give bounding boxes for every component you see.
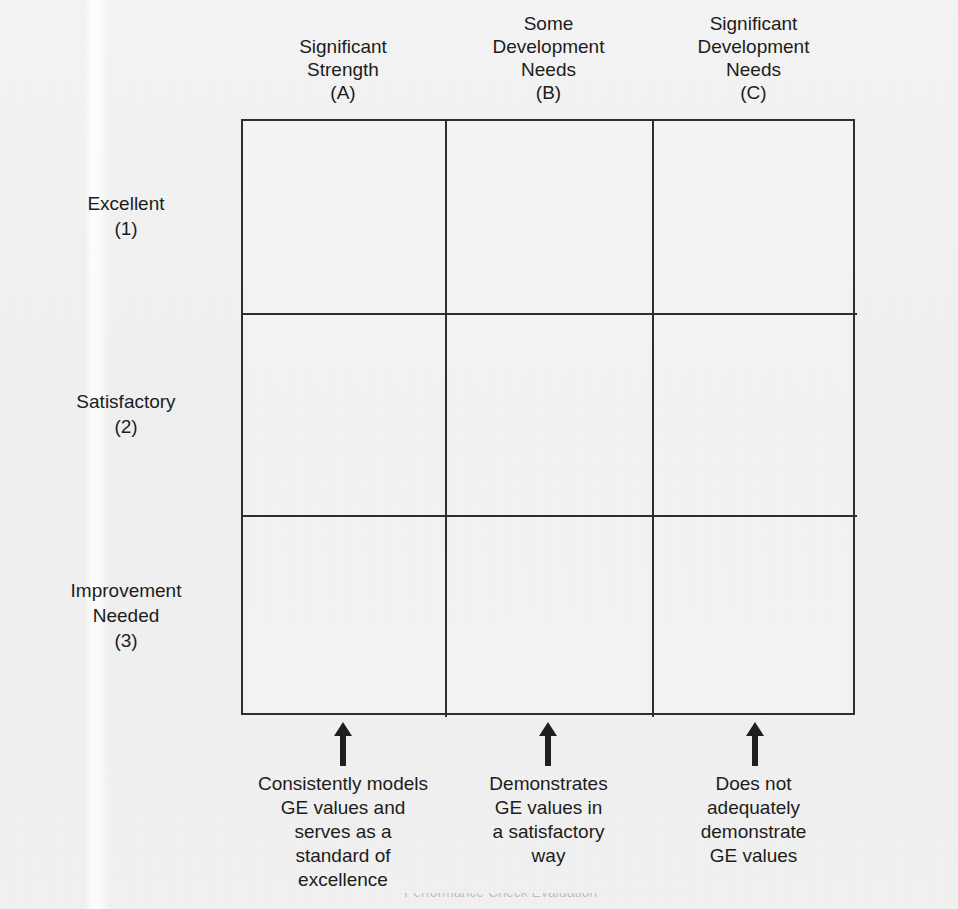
column-caption-b: Demonstrates GE values in a satisfactory…: [445, 772, 652, 868]
matrix-cell-1a[interactable]: [243, 121, 447, 315]
performance-matrix-grid: [241, 119, 855, 715]
row-label-excellent: Excellent (1): [20, 119, 232, 313]
arrow-up-icon-column-a: [331, 722, 355, 766]
arrow-up-icon-column-b: [536, 722, 560, 766]
arrow-shaft: [340, 732, 346, 766]
arrow-shaft: [752, 732, 758, 766]
matrix-cell-1c[interactable]: [654, 121, 857, 315]
matrix-cell-3b[interactable]: [447, 517, 654, 717]
scanned-page: Significant Strength (A) Some Developmen…: [0, 0, 958, 909]
arrow-shaft: [545, 732, 551, 766]
column-caption-c: Does not adequately demonstrate GE value…: [652, 772, 855, 868]
row-label-improvement-needed: Improvement Needed (3): [20, 515, 232, 715]
column-caption-a: Consistently models GE values and serves…: [241, 772, 445, 892]
cut-off-footer-line: Performance Check Evaluation - - - - - -…: [0, 893, 958, 909]
arrow-up-icon-column-c: [743, 722, 767, 766]
matrix-cell-2a[interactable]: [243, 315, 447, 517]
matrix-cell-3c[interactable]: [654, 517, 857, 717]
matrix-cell-2b[interactable]: [447, 315, 654, 517]
column-header-significant-development-needs: Significant Development Needs (C): [652, 8, 855, 104]
column-header-significant-strength: Significant Strength (A): [241, 8, 445, 104]
matrix-cell-2c[interactable]: [654, 315, 857, 517]
row-label-satisfactory: Satisfactory (2): [20, 313, 232, 515]
column-header-some-development-needs: Some Development Needs (B): [445, 8, 652, 104]
matrix-cell-3a[interactable]: [243, 517, 447, 717]
footer-text: Performance Check Evaluation - - - - - -…: [404, 893, 691, 900]
matrix-cell-1b[interactable]: [447, 121, 654, 315]
